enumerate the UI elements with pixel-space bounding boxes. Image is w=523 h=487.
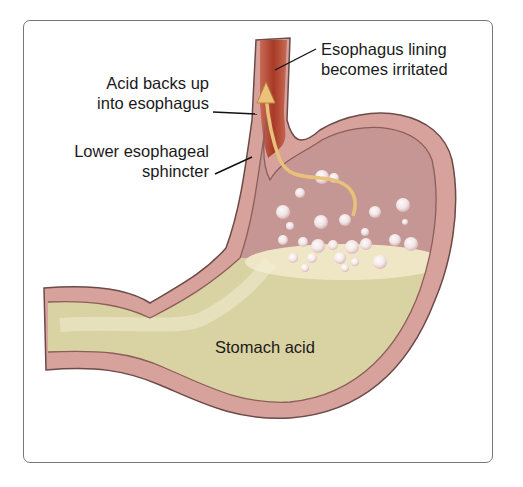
label-stomach-acid: Stomach acid — [215, 337, 315, 357]
label-line: becomes irritated — [321, 59, 448, 79]
label-esophagus-lining: Esophagus lining becomes irritated — [321, 39, 448, 79]
leader-line-acid — [213, 112, 257, 114]
label-line: Esophagus lining — [321, 39, 448, 59]
label-acid-backs-up: Acid backs up into esophagus — [97, 73, 209, 113]
label-lower-esophageal-sphincter: Lower esophageal sphincter — [74, 141, 209, 181]
label-line: into esophagus — [97, 93, 209, 113]
label-line: Lower esophageal — [74, 141, 209, 161]
label-line: Acid backs up — [97, 73, 209, 93]
label-line: sphincter — [74, 161, 209, 181]
